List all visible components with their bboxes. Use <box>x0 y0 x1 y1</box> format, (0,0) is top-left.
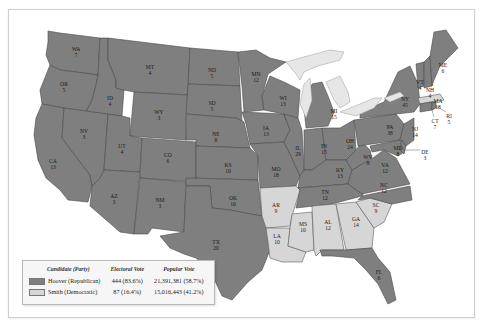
svg-text:CT7: CT7 <box>431 118 439 130</box>
svg-text:IA13: IA13 <box>263 125 269 137</box>
svg-text:CA13: CA13 <box>49 158 57 170</box>
legend-header-electoral: Electoral Vote <box>105 265 149 275</box>
svg-text:PA38: PA38 <box>387 124 394 136</box>
democratic-swatch <box>29 289 45 296</box>
svg-text:MA18: MA18 <box>433 98 442 110</box>
legend-candidate: Smith (Democratic) <box>48 288 97 295</box>
legend-header-candidate: Candidate (Party) <box>27 265 105 275</box>
svg-text:DE3: DE3 <box>421 149 429 161</box>
state-me[interactable] <box>430 30 458 86</box>
legend-popular: 21,391,381 (58.7%) <box>149 275 209 286</box>
legend-popular: 15,016,443 (41.2%) <box>149 286 209 297</box>
legend-row-hoover: Hoover (Republican) 444 (83.6%) 21,391,3… <box>27 275 209 286</box>
svg-text:IN15: IN15 <box>321 143 327 155</box>
legend-electoral: 87 (16.4%) <box>105 286 149 297</box>
svg-text:IL29: IL29 <box>295 145 301 157</box>
svg-text:NJ14: NJ14 <box>412 126 419 138</box>
svg-text:TN12: TN12 <box>321 189 328 201</box>
legend-electoral: 444 (83.6%) <box>105 275 149 286</box>
svg-text:TX20: TX20 <box>212 239 219 251</box>
svg-text:MI15: MI15 <box>331 108 338 120</box>
svg-text:VA12: VA12 <box>381 162 388 174</box>
legend-table: Candidate (Party) Electoral Vote Popular… <box>27 265 209 297</box>
svg-text:WI13: WI13 <box>279 95 286 107</box>
svg-text:LA10: LA10 <box>273 233 280 245</box>
state-ct[interactable] <box>420 102 432 112</box>
legend-row-smith: Smith (Democratic) 87 (16.4%) 15,016,443… <box>27 286 209 297</box>
legend-header-row: Candidate (Party) Electoral Vote Popular… <box>27 265 209 275</box>
legend: Candidate (Party) Electoral Vote Popular… <box>22 260 215 305</box>
svg-text:KS10: KS10 <box>224 162 231 174</box>
republican-swatch <box>29 278 45 285</box>
svg-text:RI5: RI5 <box>446 113 452 125</box>
legend-candidate: Hoover (Republican) <box>48 277 100 284</box>
legend-header-popular: Popular Vote <box>149 265 209 275</box>
svg-text:ME6: ME6 <box>439 62 448 74</box>
state-fl[interactable] <box>320 248 396 304</box>
